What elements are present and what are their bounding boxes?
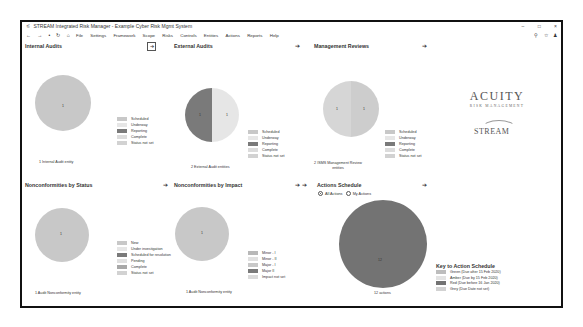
legend-label: Scheduled bbox=[399, 130, 416, 134]
swatch-red bbox=[436, 281, 446, 285]
actions-filter: All Actions My Actions bbox=[318, 191, 371, 196]
menu-scope[interactable]: Scope bbox=[143, 31, 155, 40]
action-count: 12 actions bbox=[374, 291, 391, 295]
radio-all-actions-label[interactable]: All Actions bbox=[325, 192, 343, 196]
swatch bbox=[248, 136, 258, 140]
legend-label: Scheduled bbox=[262, 130, 279, 134]
menu-help[interactable]: Help bbox=[270, 31, 279, 40]
window-title: STREAM Integrated Risk Manager - Example… bbox=[33, 23, 192, 29]
menu-file[interactable]: File bbox=[76, 31, 83, 40]
menu-reports[interactable]: Reports bbox=[247, 31, 262, 40]
legend-label: Status not set bbox=[131, 141, 154, 145]
slice-label-left: 1 bbox=[336, 107, 338, 111]
radio-all-actions[interactable] bbox=[318, 191, 323, 196]
swatch bbox=[248, 275, 258, 279]
entity-count: 1 Internal Audit entity bbox=[39, 160, 73, 164]
panel-internal-audits: Internal Audits ➔ 1 Scheduled Underway R… bbox=[25, 43, 165, 168]
swatch bbox=[385, 148, 395, 152]
panel-actions-schedule: ➔ Actions Schedule ➔ All Actions My Acti… bbox=[305, 182, 445, 307]
radio-my-actions-label[interactable]: My Actions bbox=[353, 192, 371, 196]
legend-label: Impact not set bbox=[262, 275, 285, 279]
swatch bbox=[117, 241, 127, 245]
legend: Scheduled Underway Reporting Complete St… bbox=[248, 129, 285, 159]
legend-label: Underway bbox=[399, 136, 416, 140]
refresh-icon[interactable]: ↻ bbox=[56, 31, 60, 40]
swatch bbox=[117, 141, 127, 145]
swatch bbox=[248, 257, 258, 261]
maximize-button[interactable]: □ bbox=[538, 22, 541, 31]
menu-bar: ← → • ↻ ⌂ File Settings Framework Scope … bbox=[22, 31, 561, 40]
pie-chart bbox=[185, 88, 239, 142]
swatch bbox=[117, 259, 127, 263]
legend: Minor - I Minor - II Major - I Major II … bbox=[248, 250, 285, 280]
slice-label: 1 bbox=[60, 232, 62, 236]
legend-label: Status not set bbox=[399, 154, 422, 158]
open-nc-impact-arrow-icon[interactable]: ➔ bbox=[295, 181, 300, 188]
back-icon[interactable]: ← bbox=[26, 31, 31, 40]
swatch bbox=[385, 142, 395, 146]
radio-my-actions[interactable] bbox=[346, 191, 351, 196]
swatch bbox=[385, 130, 395, 134]
menu-settings[interactable]: Settings bbox=[90, 31, 106, 40]
panel-management-reviews: Management Reviews ➔ 1 1 Scheduled Under… bbox=[305, 43, 445, 168]
panel-nc-status: Nonconformities by Status 1 New Under in… bbox=[25, 182, 165, 307]
swatch bbox=[117, 265, 127, 269]
dot-icon[interactable]: • bbox=[48, 31, 50, 40]
menu-entities[interactable]: Entities bbox=[204, 31, 218, 40]
swatch bbox=[248, 269, 258, 273]
open-external-audits-arrow-icon[interactable]: ➔ bbox=[295, 42, 300, 49]
pie-chart bbox=[339, 200, 427, 288]
entity-count: 1 Audit Nonconformity entity bbox=[35, 291, 81, 295]
action-schedule-key: Key to Action Schedule Green (Due after … bbox=[436, 263, 556, 303]
menu-risks[interactable]: Risks bbox=[162, 31, 173, 40]
menu-framework[interactable]: Framework bbox=[113, 31, 135, 40]
legend-label: Complete bbox=[131, 265, 147, 269]
home-icon[interactable]: ⌂ bbox=[67, 31, 70, 40]
swatch bbox=[117, 271, 127, 275]
app-icon: ⚟ bbox=[26, 22, 30, 31]
stream-logo: STREAM bbox=[474, 127, 509, 136]
entity-count: 2 ISMS Management Review entities bbox=[308, 161, 368, 170]
legend-label: Underway bbox=[131, 123, 148, 127]
entity-count: 2 External Audit entities bbox=[191, 165, 230, 169]
window-controls: – □ × bbox=[509, 22, 557, 31]
minimize-button[interactable]: – bbox=[521, 22, 524, 31]
legend-label: Complete bbox=[399, 148, 415, 152]
slice-label: 12 bbox=[378, 258, 382, 262]
open-nc-impact-left-arrow-icon[interactable]: ➔ bbox=[302, 181, 307, 188]
toolbar-icons: ⚲ ☆ ♟ bbox=[530, 31, 557, 40]
panel-title: Management Reviews bbox=[314, 43, 369, 49]
open-actions-arrow-icon[interactable]: ➔ bbox=[422, 181, 427, 188]
star-icon[interactable]: ☆ bbox=[544, 31, 548, 40]
forward-icon[interactable]: → bbox=[37, 31, 42, 40]
slice-label-underway: 1 bbox=[226, 113, 228, 117]
swatch bbox=[117, 253, 127, 257]
close-button[interactable]: × bbox=[554, 22, 557, 31]
open-internal-audits-arrow-icon[interactable]: ➔ bbox=[147, 42, 156, 51]
key-legend: Green (Due after 15 Feb 2020) Amber (Due… bbox=[436, 270, 501, 292]
legend-label: Pending bbox=[131, 259, 145, 263]
legend: Scheduled Underway Reporting Complete St… bbox=[117, 116, 154, 146]
app-window: ⚟ STREAM Integrated Risk Manager - Examp… bbox=[20, 20, 563, 308]
menu-controls[interactable]: Controls bbox=[180, 31, 196, 40]
swatch bbox=[248, 148, 258, 152]
swatch bbox=[248, 130, 258, 134]
swatch bbox=[385, 154, 395, 158]
slice-label: 1 bbox=[62, 104, 64, 108]
open-management-reviews-arrow-icon[interactable]: ➔ bbox=[422, 42, 427, 49]
legend-label: Under investigation bbox=[131, 247, 163, 251]
search-icon[interactable]: ⚲ bbox=[534, 31, 538, 40]
panel-external-audits: External Audits ➔ 1 1 Scheduled Underway… bbox=[165, 43, 305, 168]
acuity-logo-subtitle: RISK MANAGEMENT bbox=[447, 104, 547, 108]
user-icon[interactable]: ♟ bbox=[553, 31, 557, 40]
swatch bbox=[248, 251, 258, 255]
legend-label: New bbox=[131, 241, 138, 245]
legend-label: Major II bbox=[262, 269, 274, 273]
legend-label: Underway bbox=[262, 136, 279, 140]
open-nc-status-arrow-icon[interactable]: ➔ bbox=[163, 181, 168, 188]
menu-actions[interactable]: Actions bbox=[225, 31, 239, 40]
swatch bbox=[117, 247, 127, 251]
panel-nc-impact: ➔ Nonconformities by Impact ➔ 1 Minor - … bbox=[165, 182, 305, 307]
title-bar: ⚟ STREAM Integrated Risk Manager - Examp… bbox=[22, 22, 561, 31]
key-label: Grey (Due Date not set) bbox=[450, 287, 489, 291]
